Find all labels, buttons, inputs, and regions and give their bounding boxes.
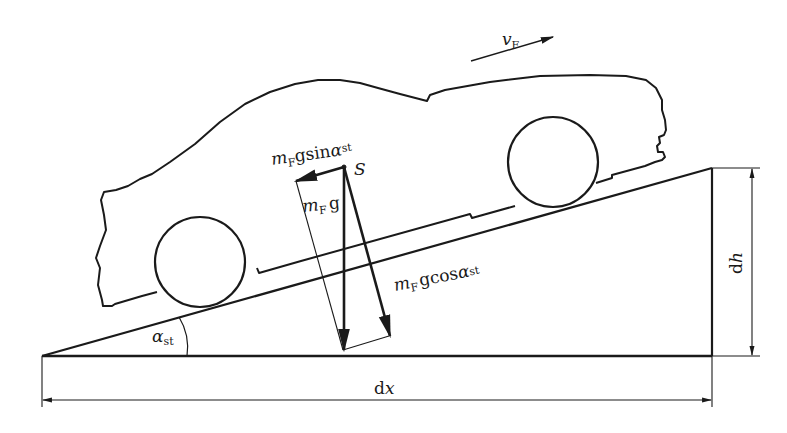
dh-label: dh xyxy=(726,252,746,274)
center-of-gravity-label: S xyxy=(354,159,366,179)
slope-angle-arc xyxy=(179,317,188,356)
weight-label: mFg xyxy=(301,192,341,219)
dx-label: dx xyxy=(374,378,395,398)
slope-angle-label: αst xyxy=(152,326,174,348)
front-wheel xyxy=(508,117,598,207)
center-of-gravity-point xyxy=(342,165,346,169)
incline-force-diagram: vF S mFgsinαst mFg mFgcosαst αst dx dh xyxy=(0,0,787,433)
ramp-slope xyxy=(42,168,712,356)
normal-force-vector xyxy=(344,167,390,336)
rear-wheel xyxy=(155,217,245,307)
ramp xyxy=(42,168,712,356)
downhill-force-vector xyxy=(296,167,344,181)
normal-force-label: mFgcosαst xyxy=(392,259,482,298)
velocity-label: vF xyxy=(502,29,520,52)
